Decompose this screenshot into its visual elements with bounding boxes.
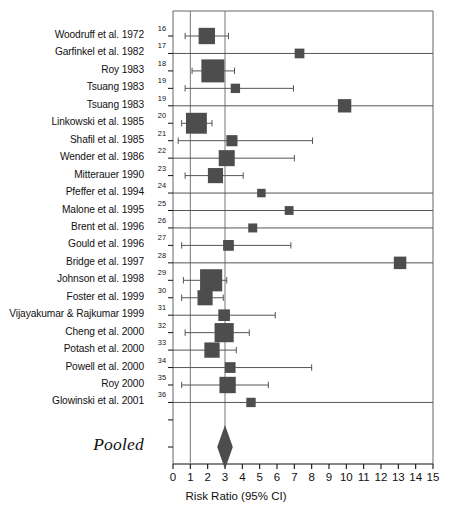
effect-size-marker [215, 323, 234, 342]
effect-size-marker [295, 49, 305, 59]
effect-size-marker [198, 290, 213, 305]
x-axis-title: Risk Ratio (95% CI) [36, 490, 436, 502]
x-tick-label: 11 [358, 471, 370, 483]
effect-size-marker [223, 240, 234, 251]
effect-size-marker [218, 309, 230, 321]
study-row [185, 323, 249, 342]
study-row [185, 84, 293, 93]
study-row [173, 257, 433, 270]
pooled-effect-diamond [217, 425, 233, 469]
study-row [182, 290, 224, 305]
study-row [178, 135, 312, 146]
study-row [173, 49, 433, 59]
effect-size-marker [199, 28, 215, 44]
effect-size-marker [248, 223, 257, 232]
effect-size-marker [394, 257, 407, 270]
effect-size-marker [201, 59, 224, 82]
x-tick-label: 14 [409, 471, 422, 483]
effect-size-marker [226, 135, 237, 146]
study-row [182, 377, 269, 393]
effect-size-marker [246, 398, 255, 407]
effect-size-marker [219, 377, 235, 393]
study-row [185, 168, 243, 183]
study-row [185, 28, 228, 44]
x-tick-label: 1 [187, 471, 193, 483]
study-row [173, 362, 312, 373]
x-tick-label: 3 [222, 471, 228, 483]
effect-size-marker [285, 206, 294, 215]
effect-size-marker [257, 189, 265, 197]
x-tick-label: 0 [170, 471, 176, 483]
effect-size-marker [200, 269, 222, 291]
forest-plot-figure: Woodruff et al. 197216Garfinkel et al. 1… [0, 0, 450, 515]
x-tick-label: 5 [256, 471, 262, 483]
x-tick-label: 13 [392, 471, 405, 483]
study-row [173, 206, 433, 215]
x-tick-label: 7 [291, 471, 297, 483]
effect-size-marker [219, 150, 235, 166]
effect-size-marker [338, 99, 351, 112]
x-tick-label: 4 [239, 471, 245, 483]
study-row [182, 113, 212, 134]
study-row [173, 150, 294, 166]
x-tick-label: 12 [375, 471, 388, 483]
study-row [173, 342, 236, 357]
study-row [173, 223, 433, 232]
study-row [192, 59, 234, 82]
forest-plot-canvas [0, 0, 450, 515]
study-row [173, 309, 275, 321]
study-row [173, 99, 433, 112]
effect-size-marker [231, 84, 240, 93]
effect-size-marker [208, 168, 223, 183]
x-tick-label: 15 [427, 471, 440, 483]
x-tick-label: 8 [308, 471, 314, 483]
study-row [182, 240, 291, 251]
x-tick-label: 2 [204, 471, 210, 483]
x-tick-label: 9 [326, 471, 332, 483]
x-tick-label: 10 [340, 471, 353, 483]
effect-size-marker [204, 342, 219, 357]
effect-size-marker [225, 362, 236, 373]
x-tick-label: 6 [274, 471, 280, 483]
study-row [173, 189, 433, 197]
study-row [173, 398, 433, 407]
effect-size-marker [186, 113, 207, 134]
